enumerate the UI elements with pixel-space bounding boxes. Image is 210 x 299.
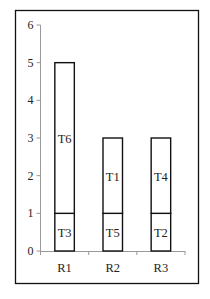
- x-tick-label: R2: [105, 261, 120, 275]
- stacked-bar-chart: 0123456 R1R2R3 T3T6T5T1T2T4: [0, 0, 210, 299]
- x-tick-label: R3: [154, 261, 169, 275]
- y-tick-label: 6: [28, 18, 34, 32]
- segment-label: T1: [106, 170, 120, 184]
- segment-label: T6: [58, 132, 72, 146]
- segment-label: T2: [154, 226, 168, 240]
- y-tick-label: 5: [28, 56, 34, 70]
- segment-label: T4: [154, 170, 169, 184]
- y-tick-label: 0: [28, 244, 34, 258]
- y-tick-label: 2: [28, 169, 34, 183]
- y-tick-label: 3: [28, 131, 34, 145]
- y-tick-label: 4: [28, 93, 34, 107]
- segment-label: T5: [106, 226, 120, 240]
- x-tick-label: R1: [57, 261, 72, 275]
- y-tick-label: 1: [28, 206, 34, 220]
- segment-label: T3: [58, 226, 72, 240]
